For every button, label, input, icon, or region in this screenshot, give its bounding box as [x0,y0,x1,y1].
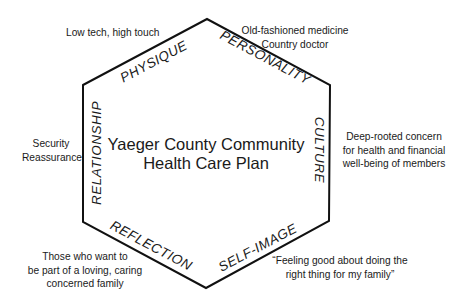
note-personality: Old-fashioned medicine Country doctor [238,24,352,51]
note-physique-line-1: Low tech, high touch [66,26,176,40]
note-relationship-line-1: Security [20,137,82,151]
note-reflection-line-1: Those who want to [22,250,148,264]
note-relationship: Security Reassurance [20,137,82,164]
note-personality-line-2: Country doctor [238,38,352,52]
note-physique: Low tech, high touch [66,26,176,40]
note-self-image-line-1: “Feeling good about doing the [268,254,412,268]
note-self-image: “Feeling good about doing the right thin… [268,254,412,281]
note-culture-line-3: well-being of members [332,157,456,171]
note-reflection-line-2: be part of a loving, caring [22,264,148,278]
note-reflection: Those who want to be part of a loving, c… [22,250,148,291]
edge-label-relationship: RELATIONSHIP [90,100,104,206]
note-reflection-line-3: concerned family [22,277,148,291]
note-personality-line-1: Old-fashioned medicine [238,24,352,38]
note-relationship-line-2: Reassurance [20,151,82,165]
note-self-image-line-2: right thing for my family” [268,268,412,282]
note-culture: Deep-rooted concern for health and finan… [332,130,456,171]
note-culture-line-2: for health and financial [332,144,456,158]
note-culture-line-1: Deep-rooted concern [332,130,456,144]
edge-label-culture: CULTURE [312,112,326,188]
